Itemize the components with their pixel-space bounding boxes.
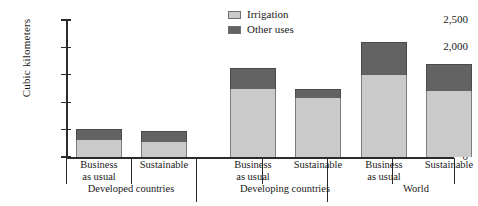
category-label: Sustainable [285,159,351,171]
y-axis-title: Cubic kilometers [20,0,32,128]
bar-segment-irrigation [426,91,472,157]
bar-segment-other-uses [361,42,407,75]
group-label: World [356,183,476,195]
category-labels: Business as usualSustainableBusiness as … [66,158,454,184]
bar-stack [141,131,187,157]
bar-segment-other-uses [295,89,341,99]
legend-swatch [228,11,241,19]
category-label: Sustainable [416,159,478,171]
bar-stack [230,68,276,157]
bar-stack [295,89,341,158]
legend-item: Irrigation [228,8,294,21]
bar-segment-irrigation [76,140,122,157]
bar-series-area [66,20,454,157]
legend-swatch [228,26,241,34]
bar-segment-other-uses [230,68,276,89]
bar-segment-other-uses [141,131,187,142]
bar-stack [426,64,472,157]
group-labels: Developed countriesDeveloping countriesW… [66,183,454,201]
legend-item: Other uses [228,23,294,36]
category-label: Business as usual [66,159,132,182]
legend-label: Other uses [247,23,294,36]
chart-legend: IrrigationOther uses [228,8,294,38]
bar-segment-other-uses [76,129,122,141]
category-label: Business as usual [351,159,417,182]
bar-segment-irrigation [361,75,407,157]
bar-segment-irrigation [141,142,187,157]
bar-segment-irrigation [230,89,276,158]
legend-label: Irrigation [247,8,289,21]
bar-stack [361,42,407,157]
bar-segment-irrigation [295,98,341,157]
category-label: Sustainable [131,159,197,171]
category-label: Business as usual [220,159,286,182]
group-label: Developing countries [225,183,345,195]
bar-stack [76,129,122,157]
group-label: Developed countries [71,183,191,195]
bar-segment-other-uses [426,64,472,91]
